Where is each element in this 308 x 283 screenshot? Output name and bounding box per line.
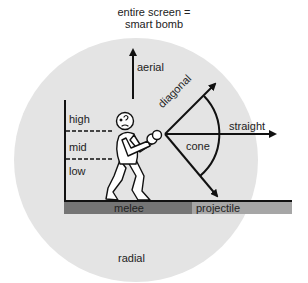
high-label: high [69,113,90,125]
radial-label: radial [118,252,145,264]
title-line-2: smart bomb [104,18,204,30]
attack-range-diagram: entire screen = smart bomb aerial diagon… [0,0,308,283]
diagram-title: entire screen = smart bomb [104,6,204,30]
mid-label: mid [69,141,87,153]
aerial-label: aerial [137,61,164,73]
projectile-label: projectile [196,202,240,214]
straight-label: straight [229,120,265,132]
low-label: low [69,165,86,177]
diagram-graphic [0,0,308,283]
cone-label: cone [186,140,210,152]
title-line-1: entire screen = [104,6,204,18]
melee-label: melee [114,202,144,214]
